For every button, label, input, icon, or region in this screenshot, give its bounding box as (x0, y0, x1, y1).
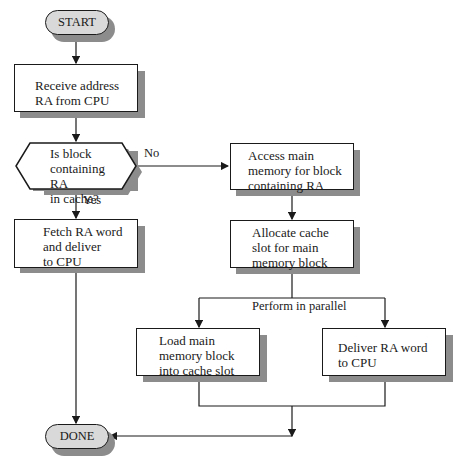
receive-address-label: Receive address RA from CPU (35, 78, 137, 108)
allocate-cache-slot-label: Allocate cache slot for main memory bloc… (252, 225, 353, 270)
access-main-memory-box: Access main memory for block containing … (230, 143, 354, 190)
deliver-ra-word-label: Deliver RA word to CPU (338, 340, 445, 370)
fetch-ra-word-box: Fetch RA word and deliver to CPU (14, 219, 138, 268)
load-main-memory-block-box: Load main memory block into cache slot (136, 328, 260, 376)
perform-in-parallel-label: Perform in parallel (252, 299, 346, 314)
yes-label: Yes (83, 193, 101, 208)
decision-text: Is block containing RA in cache? (46, 143, 126, 191)
no-label: No (144, 146, 159, 161)
done-label: DONE (60, 429, 95, 443)
access-main-memory-label: Access main memory for block containing … (248, 148, 353, 193)
deliver-ra-word-box: Deliver RA word to CPU (322, 328, 446, 376)
start-terminal: START (45, 10, 109, 35)
load-main-memory-block-label: Load main memory block into cache slot (159, 333, 259, 378)
fetch-ra-word-label: Fetch RA word and deliver to CPU (43, 224, 137, 269)
allocate-cache-slot-box: Allocate cache slot for main memory bloc… (230, 220, 354, 268)
done-terminal: DONE (45, 424, 109, 449)
start-label: START (58, 15, 96, 29)
receive-address-box: Receive address RA from CPU (14, 64, 138, 112)
